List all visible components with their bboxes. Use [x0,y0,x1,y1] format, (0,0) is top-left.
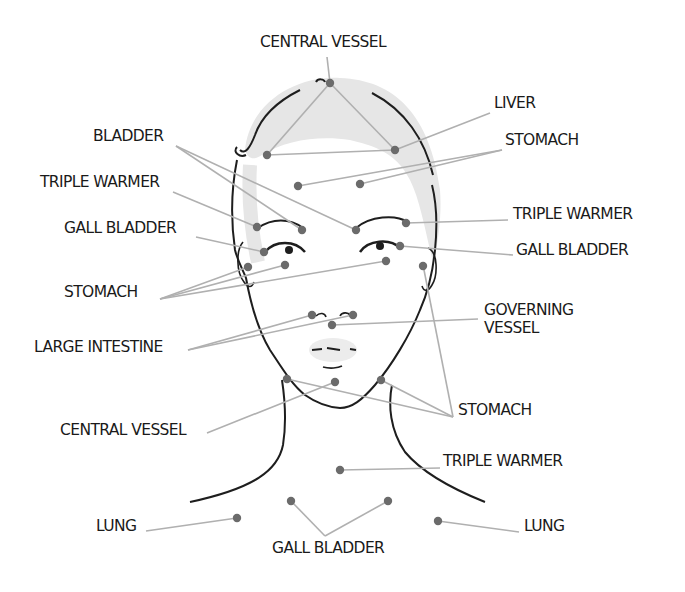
label-stomach-left: STOMACH [64,283,138,301]
point-brow-outer-right [402,219,410,227]
label-central-vessel-top: CENTRAL VESSEL [260,33,386,51]
label-lung-left: LUNG [96,517,136,535]
leader-line [160,267,248,299]
point-forehead-left [294,182,302,190]
label-triple-warmer-left: TRIPLE WARMER [40,173,160,191]
leader-line [438,521,519,532]
iris-right [376,242,384,250]
leader-line [176,146,302,230]
point-brow-inner-left [298,226,306,234]
label-large-intestine: LARGE INTESTINE [34,338,163,356]
point-under-eye-left [281,261,289,269]
label-gall-bladder-bottom: GALL BLADDER [272,539,384,557]
label-liver: LIVER [494,94,535,112]
point-lung-left [233,514,241,522]
label-triple-warmer-neck: TRIPLE WARMER [443,452,563,470]
label-triple-warmer-right: TRIPLE WARMER [513,205,633,223]
label-stomach-jaw: STOMACH [458,401,532,419]
eye-left [265,243,305,252]
point-chin [331,378,339,386]
point-collar-left [287,497,295,505]
label-bladder: BLADDER [93,127,163,145]
hair-strand [249,165,258,262]
point-mouth-corner-right [377,376,385,384]
nose-left [316,313,326,317]
point-brow-outer-left [253,223,261,231]
point-temple-right [419,262,427,270]
point-brow-inner-right [352,226,360,234]
face-outline-left [232,160,436,408]
eyebrow-right [356,217,408,228]
point-temple-left [244,263,252,271]
leader-line [381,380,453,417]
label-gall-bladder-right: GALL BLADDER [516,241,628,259]
point-lung-right [434,517,442,525]
leader-line [146,518,237,531]
leader-line [325,501,388,536]
leader-line [188,315,312,350]
leader-line [207,382,335,433]
lower-lip [323,366,342,368]
neck-left [190,380,285,502]
point-eye-outer-right [396,242,404,250]
point-nostril-right [349,311,357,319]
label-lung-right: LUNG [524,517,564,535]
point-hairline-right [391,146,399,154]
label-central-vessel-chin: CENTRAL VESSEL [60,421,186,439]
leader-line [291,501,325,536]
label-governing-vessel: GOVERNING VESSEL [484,301,573,337]
label-gall-bladder-left: GALL BLADDER [64,219,176,237]
point-collar-right [384,497,392,505]
point-forehead-right [356,180,364,188]
hair-shading [245,78,441,262]
label-stomach-forehead: STOMACH [505,131,579,149]
leader-line [332,319,478,325]
point-mouth-corner-left [283,375,291,383]
leader-line [287,379,453,417]
point-nostril-left [308,311,316,319]
iris-left [285,246,293,254]
leader-line [406,220,508,223]
point-throat [336,466,344,474]
point-philtrum [328,321,336,329]
point-eye-outer-left [260,248,268,256]
point-hairline-left [263,151,271,159]
point-crown [326,79,334,87]
leader-line [160,265,285,299]
point-under-eye-right [382,257,390,265]
leader-line [400,246,513,255]
leader-line [160,261,386,299]
leader-line [267,150,395,155]
leader-line [424,270,453,417]
